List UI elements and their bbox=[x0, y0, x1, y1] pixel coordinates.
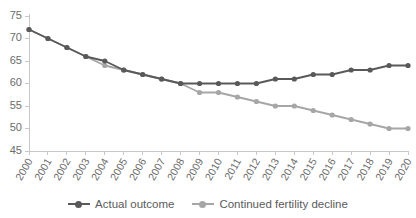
data-point[interactable] bbox=[83, 54, 88, 59]
data-point[interactable] bbox=[197, 90, 202, 95]
data-point[interactable] bbox=[26, 27, 31, 32]
legend-item-actual-outcome[interactable]: Actual outcome bbox=[68, 198, 174, 210]
data-point[interactable] bbox=[102, 63, 107, 68]
x-axis-tick-label: 2001 bbox=[32, 156, 54, 182]
x-axis-tick-label: 2016 bbox=[316, 156, 338, 182]
x-axis-tick-label: 2010 bbox=[202, 156, 224, 182]
x-axis-tick-label: 2015 bbox=[297, 156, 319, 182]
chart-legend: Actual outcome Continued fertility decli… bbox=[0, 198, 416, 210]
x-axis-tick-group bbox=[29, 151, 408, 155]
x-axis-tick-label: 2009 bbox=[183, 156, 205, 182]
x-axis-tick-label: 2006 bbox=[126, 156, 148, 182]
data-point[interactable] bbox=[349, 67, 354, 72]
data-point[interactable] bbox=[140, 72, 145, 77]
x-axis-tick-label: 2012 bbox=[240, 156, 262, 182]
data-point[interactable] bbox=[311, 72, 316, 77]
data-point[interactable] bbox=[102, 58, 107, 63]
data-point[interactable] bbox=[386, 126, 391, 131]
x-axis-tick-label: 2008 bbox=[164, 156, 186, 182]
chart-container: 45505560657075 2000200120022003200420052… bbox=[0, 0, 416, 218]
legend-label-actual-outcome: Actual outcome bbox=[95, 198, 174, 210]
x-axis-tick-label: 2005 bbox=[107, 156, 129, 182]
x-axis-tick-label: 2003 bbox=[70, 156, 92, 182]
x-axis-tick-label: 2014 bbox=[278, 156, 300, 182]
line-chart-plot: 45505560657075 2000200120022003200420052… bbox=[0, 0, 416, 198]
x-axis-tick-label: 2004 bbox=[88, 156, 110, 182]
data-point[interactable] bbox=[235, 94, 240, 99]
x-axis-tick-label: 2002 bbox=[51, 156, 73, 182]
data-point[interactable] bbox=[292, 76, 297, 81]
x-axis-tick-label: 2019 bbox=[373, 156, 395, 182]
data-point[interactable] bbox=[235, 81, 240, 86]
y-axis-tick-label: 55 bbox=[10, 99, 22, 111]
legend-item-continued-fertility-decline[interactable]: Continued fertility decline bbox=[192, 198, 348, 210]
data-point[interactable] bbox=[216, 90, 221, 95]
data-point[interactable] bbox=[64, 45, 69, 50]
data-point[interactable] bbox=[216, 81, 221, 86]
x-axis-tick-label: 2007 bbox=[145, 156, 167, 182]
data-point[interactable] bbox=[178, 81, 183, 86]
data-point[interactable] bbox=[45, 36, 50, 41]
data-point[interactable] bbox=[121, 67, 126, 72]
y-axis-tick-label: 45 bbox=[10, 144, 22, 156]
x-axis-label-group: 2000200120022003200420052006200720082009… bbox=[13, 156, 414, 182]
data-point[interactable] bbox=[292, 103, 297, 108]
x-axis-tick-label: 2018 bbox=[354, 156, 376, 182]
data-point[interactable] bbox=[254, 81, 259, 86]
data-point[interactable] bbox=[368, 67, 373, 72]
y-axis-tick-label: 70 bbox=[10, 31, 22, 43]
data-point[interactable] bbox=[405, 63, 410, 68]
y-axis-tick-label: 50 bbox=[10, 121, 22, 133]
x-axis-tick-label: 2013 bbox=[259, 156, 281, 182]
y-axis-tick-label: 75 bbox=[10, 9, 22, 21]
y-axis-tick-label: 65 bbox=[10, 54, 22, 66]
data-point[interactable] bbox=[254, 99, 259, 104]
y-axis-tick-group: 45505560657075 bbox=[10, 9, 29, 156]
x-axis-tick-label: 2000 bbox=[13, 156, 35, 182]
legend-marker-icon bbox=[68, 199, 90, 209]
data-point[interactable] bbox=[159, 76, 164, 81]
x-axis-tick-label: 2020 bbox=[392, 156, 414, 182]
data-point[interactable] bbox=[273, 103, 278, 108]
x-axis-tick-label: 2017 bbox=[335, 156, 357, 182]
series-line-continued-fertility-decline bbox=[29, 30, 408, 129]
data-point[interactable] bbox=[311, 108, 316, 113]
x-axis-tick-label: 2011 bbox=[221, 156, 243, 182]
data-series-group bbox=[26, 27, 410, 131]
data-point[interactable] bbox=[349, 117, 354, 122]
legend-marker-icon bbox=[192, 199, 214, 209]
data-point[interactable] bbox=[330, 112, 335, 117]
data-point[interactable] bbox=[330, 72, 335, 77]
legend-label-continued-fertility-decline: Continued fertility decline bbox=[219, 198, 348, 210]
data-point[interactable] bbox=[405, 126, 410, 131]
y-axis-tick-label: 60 bbox=[10, 76, 22, 88]
data-point[interactable] bbox=[386, 63, 391, 68]
data-point[interactable] bbox=[368, 121, 373, 126]
data-point[interactable] bbox=[197, 81, 202, 86]
data-point[interactable] bbox=[273, 76, 278, 81]
